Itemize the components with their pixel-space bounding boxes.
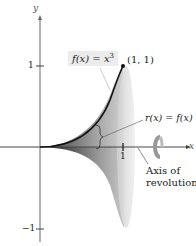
y-axis-label: y xyxy=(33,4,38,13)
point-label: (1, 1) xyxy=(127,55,154,65)
function-label: f(x) = x3 xyxy=(68,51,118,66)
point-1-1 xyxy=(121,64,125,68)
function-label-text: f(x) = x xyxy=(72,53,110,64)
y-axis-arrow-icon xyxy=(38,15,42,20)
function-exponent: 3 xyxy=(110,52,114,60)
axis-of-revolution-label-line2: revolution xyxy=(146,178,196,188)
x-axis-label: x xyxy=(189,142,194,151)
function-leader xyxy=(100,68,110,90)
axis-leader xyxy=(138,148,148,164)
axis-of-revolution-label-line1: Axis of xyxy=(146,166,180,176)
y-tick-label-1: 1 xyxy=(28,61,34,70)
figure-canvas xyxy=(0,0,196,246)
solid-of-revolution-upper xyxy=(40,66,124,147)
y-tick-label-neg1: −1 xyxy=(22,224,35,233)
solid-of-revolution-lower xyxy=(40,147,124,228)
x-tick-label-1: 1 xyxy=(120,152,126,161)
radius-label: r(x) = f(x) xyxy=(145,113,193,123)
